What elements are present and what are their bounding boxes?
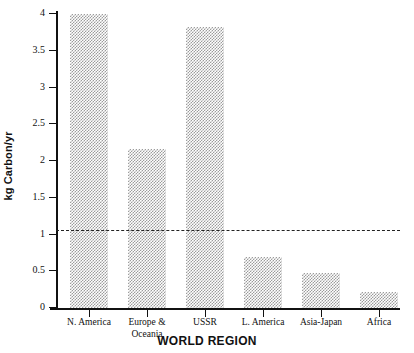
y-tick: 3.5 <box>49 50 56 51</box>
y-tick-label: 2.5 <box>33 116 46 129</box>
y-axis-title: kg Carbon/yr <box>2 96 14 236</box>
y-tick: 0.5 <box>49 270 56 271</box>
y-tick: 3 <box>49 87 56 88</box>
y-tick-label: 2 <box>40 153 45 166</box>
x-axis-label: Africa <box>350 316 408 328</box>
bar <box>70 14 108 308</box>
y-tick: 2.5 <box>49 123 56 124</box>
y-tick-label: 0 <box>40 300 45 313</box>
y-tick: 1.5 <box>49 197 56 198</box>
y-tick-label: 3 <box>40 80 45 93</box>
y-axis-line <box>56 11 58 310</box>
y-tick: 4 <box>49 13 56 14</box>
bar <box>302 273 340 308</box>
y-tick-label: 1.5 <box>33 190 46 203</box>
x-axis-label: USSR <box>176 316 234 328</box>
bar <box>128 149 166 308</box>
x-axis-label: N. America <box>60 316 118 328</box>
plot-area: 00.511.522.533.54 <box>56 14 400 310</box>
y-tick-label: 4 <box>40 6 45 19</box>
x-axis-label: L. America <box>234 316 292 328</box>
reference-line <box>56 230 400 231</box>
bar <box>186 27 224 309</box>
y-tick-label: 1 <box>40 227 45 240</box>
y-tick: 2 <box>49 160 56 161</box>
y-tick: 1 <box>49 234 56 235</box>
x-axis-label: Asia-Japan <box>292 316 350 328</box>
y-tick-label: 0.5 <box>33 263 46 276</box>
x-axis-line <box>50 308 400 310</box>
bar <box>360 292 398 308</box>
y-tick-label: 3.5 <box>33 43 46 56</box>
bar <box>244 257 282 308</box>
y-tick: 0 <box>49 307 56 308</box>
x-axis-title: WORLD REGION <box>0 334 414 348</box>
bar-chart-figure: kg Carbon/yr 00.511.522.533.54 N. Americ… <box>0 0 414 353</box>
